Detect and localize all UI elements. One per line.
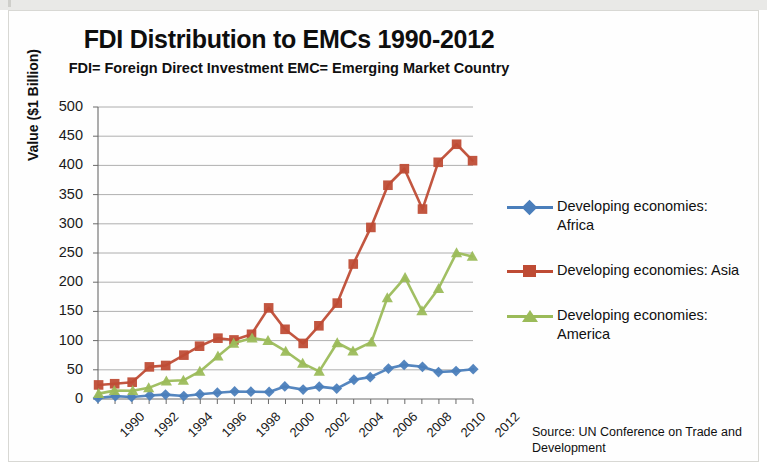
legend-item-america[interactable]: Developing economies: America (507, 306, 757, 344)
chart-frame: FDI Distribution to EMCs 1990-2012 FDI= … (8, 10, 759, 462)
y-axis-tick: 200 (39, 273, 83, 289)
scan-edge-top (0, 0, 767, 10)
legend-swatch-africa (507, 198, 553, 216)
legend-label-america: Developing economies: America (557, 306, 708, 344)
source-note: Source: UN Conference on Trade and Devel… (532, 424, 747, 456)
y-axis-tick: 500 (39, 98, 83, 114)
legend-label-america-line1: Developing economies: (557, 307, 708, 323)
y-axis-tick: 250 (39, 244, 83, 260)
diamond-marker-icon (522, 200, 538, 216)
y-axis-tick: 300 (39, 215, 83, 231)
y-axis-tick: 150 (39, 302, 83, 318)
legend-label-africa-line2: Africa (557, 217, 594, 233)
series-developing-economies-america (93, 247, 478, 398)
legend-item-asia[interactable]: Developing economies: Asia (507, 261, 757, 280)
chart-legend: Developing economies: Africa Developing … (507, 197, 757, 370)
square-marker-icon (523, 265, 536, 277)
scan-artifact-mark (8, 0, 11, 7)
legend-label-asia-line1: Developing economies: Asia (557, 262, 739, 278)
y-axis-tick: 50 (39, 361, 83, 377)
legend-swatch-asia (507, 262, 553, 280)
legend-label-africa-line1: Developing economies: (557, 198, 708, 214)
y-axis-tick: 0 (39, 390, 83, 406)
y-axis-tick: 450 (39, 127, 83, 143)
y-axis-tick: 400 (39, 156, 83, 172)
legend-item-africa[interactable]: Developing economies: Africa (507, 197, 757, 235)
y-axis-tick: 100 (39, 332, 83, 348)
legend-label-africa: Developing economies: Africa (557, 197, 708, 235)
legend-swatch-america (507, 307, 553, 325)
y-axis-tick: 350 (39, 186, 83, 202)
legend-label-america-line2: America (557, 326, 610, 342)
triangle-marker-icon (522, 310, 538, 322)
legend-label-asia: Developing economies: Asia (557, 261, 739, 280)
